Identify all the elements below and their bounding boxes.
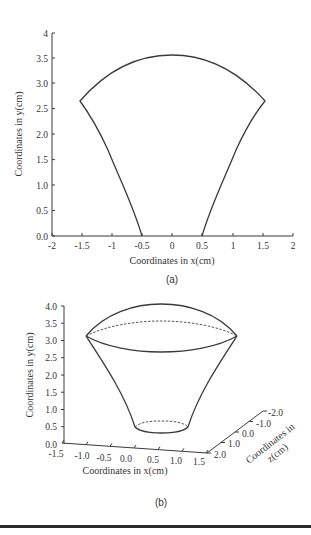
svg-text:-1: -1 (108, 241, 116, 251)
chart-b-y-tick-labels: 0.0 0.5 1.0 1.5 2.0 2.5 3.0 3.5 4.0 (45, 302, 57, 450)
svg-text:-0.5: -0.5 (96, 453, 111, 463)
chart-b-bottom-rim-back (135, 421, 188, 427)
svg-text:0.0: 0.0 (120, 454, 132, 464)
chart-a: 0.0 0.5 1.0 1.5 2.0 2.5 3.0 3.5 4 -2 -1.… (13, 29, 296, 286)
svg-text:2.0: 2.0 (36, 130, 48, 140)
chart-b-y-axis-title: Coordinates in y(cm) (24, 333, 36, 418)
svg-text:1.5: 1.5 (193, 457, 205, 467)
svg-text:3.0: 3.0 (45, 336, 57, 346)
svg-text:4.0: 4.0 (45, 302, 57, 312)
chart-b-top-rim-back (86, 321, 237, 336)
chart-b-caption: (b) (155, 497, 167, 508)
chart-b: 0.0 0.5 1.0 1.5 2.0 2.5 3.0 3.5 4.0 Coor… (24, 302, 304, 509)
svg-text:1.5: 1.5 (45, 388, 57, 398)
svg-text:-0.5: -0.5 (134, 241, 149, 251)
svg-text:-1.5: -1.5 (74, 241, 89, 251)
svg-text:-1.0: -1.0 (256, 419, 271, 429)
svg-text:0.0: 0.0 (36, 232, 48, 242)
svg-text:2.0: 2.0 (214, 450, 226, 460)
svg-text:2.5: 2.5 (45, 353, 57, 363)
svg-text:0: 0 (170, 241, 175, 251)
figure: 0.0 0.5 1.0 1.5 2.0 2.5 3.0 3.5 4 -2 -1.… (0, 0, 311, 535)
svg-text:0.5: 0.5 (147, 455, 159, 465)
svg-text:1.0: 1.0 (228, 439, 240, 449)
svg-text:3.0: 3.0 (36, 79, 48, 89)
svg-text:-1.0: -1.0 (74, 451, 89, 461)
chart-b-x-axis-title: Coordinates in x(cm) (83, 465, 168, 477)
svg-text:1.0: 1.0 (36, 181, 48, 191)
chart-b-top-dome (86, 304, 237, 336)
svg-text:1.0: 1.0 (45, 405, 57, 415)
svg-text:1: 1 (231, 241, 236, 251)
svg-text:0.0: 0.0 (45, 440, 57, 450)
chart-a-y-tick-labels: 0.0 0.5 1.0 1.5 2.0 2.5 3.0 3.5 4 (36, 29, 48, 242)
svg-text:2: 2 (291, 241, 296, 251)
svg-text:2.0: 2.0 (45, 371, 57, 381)
chart-a-caption: (a) (166, 274, 178, 285)
svg-text:4: 4 (43, 29, 48, 39)
svg-text:0.5: 0.5 (196, 241, 208, 251)
svg-text:0.0: 0.0 (242, 429, 254, 439)
chart-a-y-axis-title: Coordinates in y(cm) (13, 92, 25, 177)
bottom-rule (0, 525, 311, 528)
chart-a-x-tick-labels: -2 -1.5 -1 -0.5 0 0.5 1 1.5 2 (48, 241, 296, 251)
svg-text:2.5: 2.5 (36, 104, 48, 114)
svg-text:1.5: 1.5 (257, 241, 269, 251)
chart-b-bottom-rim-front (135, 427, 188, 433)
svg-text:0.5: 0.5 (36, 206, 48, 216)
svg-text:3.5: 3.5 (45, 319, 57, 329)
chart-a-x-axis-title: Coordinates in x(cm) (130, 255, 215, 267)
chart-a-profile-curve (80, 55, 265, 236)
svg-text:-2: -2 (48, 241, 56, 251)
svg-text:1.5: 1.5 (36, 155, 48, 165)
chart-b-top-rim-front (86, 336, 237, 352)
svg-text:-2.0: -2.0 (268, 408, 283, 418)
svg-text:1.0: 1.0 (170, 456, 182, 466)
svg-text:-1.5: -1.5 (48, 449, 63, 459)
svg-text:0.5: 0.5 (45, 422, 57, 432)
svg-text:3.5: 3.5 (36, 54, 48, 64)
